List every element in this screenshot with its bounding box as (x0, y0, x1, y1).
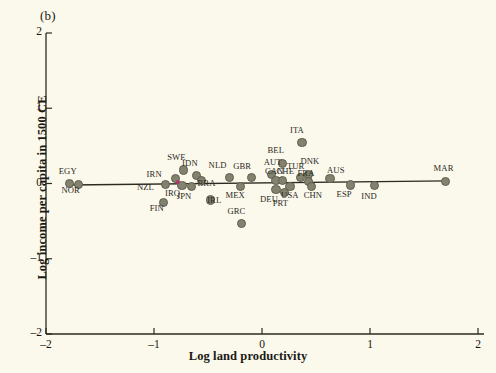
scatter-point-label: DNK (300, 156, 319, 166)
scatter-point-label: EGY (59, 166, 77, 176)
scatter-point-label: ITA (290, 125, 304, 135)
regression-fit-line (70, 181, 448, 185)
scatter-point-label: IRN (147, 169, 162, 179)
scatter-point-label: MEX (225, 190, 244, 200)
y-tick-label: 2 (26, 25, 42, 37)
scatter-point-label: CHN (304, 190, 322, 200)
scatter-point-label: NOR (61, 185, 79, 195)
scatter-point-label: GRC (227, 206, 245, 216)
scatter-point-label: AUS (327, 165, 345, 175)
scatter-point-label: ESP (337, 189, 352, 199)
scatter-point-label: IND (361, 191, 377, 201)
scatter-point[interactable] (297, 138, 306, 147)
y-tick-label: –2 (26, 326, 42, 338)
y-axis-title: Log income per capita in 1500 CE (35, 68, 50, 308)
scatter-point-label: FIN (150, 203, 164, 213)
scatter-point-label: JPN (177, 191, 192, 201)
scatter-point-label: USA (281, 190, 299, 200)
scatter-point[interactable] (441, 177, 450, 186)
scatter-point-label: IRL (207, 195, 221, 205)
scatter-point-label: BRA (198, 178, 216, 188)
scatter-point-label: IDN (182, 158, 198, 168)
scatter-point-label: MAR (434, 163, 454, 173)
scatter-point-label: BEL (268, 145, 285, 155)
scatter-point[interactable] (237, 219, 246, 228)
scatter-point-label: NZL (137, 182, 154, 192)
figure-panel: (b) EGYNORNZLFINIRNSWEIRQJPNIDNBRAIRLNLD… (0, 0, 496, 373)
scatter-point[interactable] (247, 173, 256, 182)
scatter-point-label: NLD (209, 160, 227, 170)
x-axis-title: Log land productivity (0, 349, 496, 364)
scatter-point-label: GBR (233, 161, 251, 171)
scatter-point-label: FRA (297, 168, 314, 178)
highlight-marker[interactable] (176, 180, 180, 184)
